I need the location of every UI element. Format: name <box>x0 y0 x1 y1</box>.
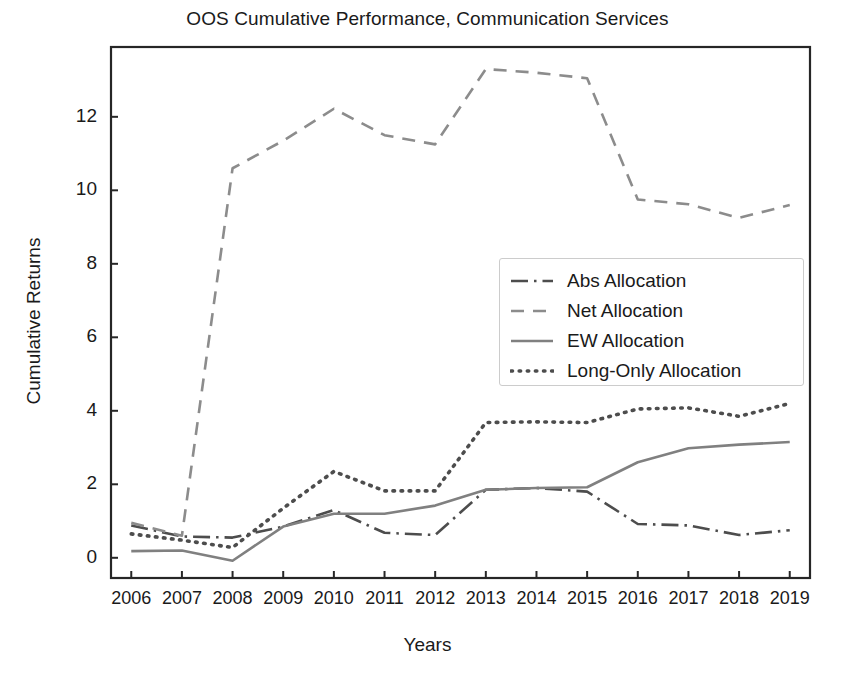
x-tick-label: 2011 <box>359 588 411 609</box>
x-tick-label: 2010 <box>308 588 360 609</box>
legend-label: Long-Only Allocation <box>567 360 741 382</box>
x-tick-label: 2007 <box>156 588 208 609</box>
x-tick-label: 2015 <box>561 588 613 609</box>
x-tick-label: 2006 <box>105 588 157 609</box>
x-tick-label: 2012 <box>409 588 461 609</box>
legend-item[interactable]: Net Allocation <box>510 295 683 327</box>
legend-line-swatch <box>510 364 554 378</box>
legend-line-swatch <box>510 334 554 348</box>
x-tick-label: 2019 <box>764 588 816 609</box>
y-tick-label: 4 <box>57 399 97 421</box>
legend-label: Net Allocation <box>567 300 683 322</box>
legend-line-swatch <box>510 304 554 318</box>
legend-item[interactable]: Abs Allocation <box>510 265 686 297</box>
y-tick-label: 10 <box>57 178 97 200</box>
x-tick-label: 2009 <box>257 588 309 609</box>
chart-legend: Abs AllocationNet AllocationEW Allocatio… <box>499 258 804 386</box>
y-tick-label: 0 <box>57 546 97 568</box>
y-tick-label: 6 <box>57 325 97 347</box>
chart-figure: OOS Cumulative Performance, Communicatio… <box>0 0 855 692</box>
x-tick-label: 2014 <box>510 588 562 609</box>
x-tick-label: 2018 <box>713 588 765 609</box>
y-tick-label: 2 <box>57 472 97 494</box>
y-tick-label: 8 <box>57 252 97 274</box>
legend-item[interactable]: EW Allocation <box>510 325 684 357</box>
y-tick-label: 12 <box>57 105 97 127</box>
x-tick-label: 2017 <box>662 588 714 609</box>
legend-item[interactable]: Long-Only Allocation <box>510 355 741 387</box>
legend-line-swatch <box>510 274 554 288</box>
x-tick-label: 2016 <box>612 588 664 609</box>
legend-label: Abs Allocation <box>567 270 686 292</box>
legend-label: EW Allocation <box>567 330 684 352</box>
x-tick-label: 2013 <box>460 588 512 609</box>
x-tick-label: 2008 <box>207 588 259 609</box>
